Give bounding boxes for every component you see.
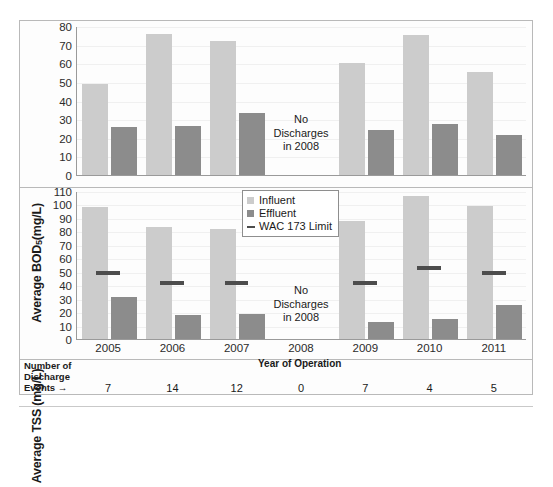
discharge-event-count: 7 <box>333 382 397 394</box>
influent-swatch-icon <box>247 197 254 204</box>
wac-limit-marker <box>417 266 441 270</box>
bar-effluent <box>368 322 394 339</box>
gridline <box>77 83 526 84</box>
x-axis-year-label: 2009 <box>333 342 397 354</box>
bar-effluent <box>175 126 201 175</box>
legend-entry-influent: Influent <box>247 194 332 207</box>
chart-legend: Influent Effluent WAC 173 Limit <box>242 190 339 237</box>
bar-influent <box>210 41 236 175</box>
bar-effluent <box>496 305 522 339</box>
x-axis-year-label: 2011 <box>462 342 526 354</box>
discharge-events-label: Number of Discharge Events → <box>24 360 72 393</box>
wac-limit-marker <box>353 281 377 285</box>
y-tick-label: 30 <box>59 115 72 125</box>
bod-chart-panel: Average BOD5 (mg/L) 80706050403020100 No… <box>20 21 532 188</box>
y-tick-label: 20 <box>59 134 72 144</box>
bar-influent <box>467 72 493 175</box>
y-tick-label: 90 <box>59 214 72 224</box>
bar-influent <box>146 34 172 175</box>
y-tick-label: 60 <box>59 59 72 69</box>
y-tick-label: 10 <box>59 322 72 332</box>
events-label-line-1: Number of <box>24 360 72 371</box>
wac-limit-marker <box>160 281 184 285</box>
tss-y-axis-ticks: 1101009080706050403020100 <box>46 188 72 340</box>
y-tick-label: 50 <box>59 78 72 88</box>
bod-note-line-1: No <box>256 113 346 127</box>
limit-line-icon <box>247 226 255 228</box>
y-tick-label: 40 <box>59 97 72 107</box>
bod-y-axis-ticks: 80706050403020100 <box>46 21 72 176</box>
y-tick-label: 110 <box>54 187 72 197</box>
bar-effluent <box>111 127 137 175</box>
gridline <box>77 27 526 28</box>
y-tick-label: 70 <box>59 241 72 251</box>
gridline <box>77 259 526 260</box>
bar-effluent <box>368 130 394 175</box>
bod-plot-area <box>76 27 526 176</box>
bar-effluent <box>432 124 458 175</box>
y-tick-label: 40 <box>59 281 72 291</box>
x-axis-year-label: 2010 <box>397 342 461 354</box>
gridline <box>77 64 526 65</box>
y-tick-label: 10 <box>59 152 72 162</box>
bod-note-line-2: Discharges <box>256 127 346 141</box>
gridline <box>77 157 526 158</box>
x-axis-year-label: 2006 <box>140 342 204 354</box>
discharge-event-count: 4 <box>397 382 461 394</box>
events-label-line-3: Events → <box>24 382 72 393</box>
bar-effluent <box>111 297 137 339</box>
gridline <box>77 246 526 247</box>
bar-influent <box>82 84 108 175</box>
x-axis-year-label: 2005 <box>76 342 140 354</box>
y-tick-label: 50 <box>59 268 72 278</box>
legend-label-limit: WAC 173 Limit <box>259 220 332 233</box>
legend-entry-effluent: Effluent <box>247 207 332 220</box>
tss-no-discharge-note: No Discharges in 2008 <box>256 284 346 325</box>
tss-note-line-2: Discharges <box>256 298 346 312</box>
bar-effluent <box>432 319 458 339</box>
bar-influent <box>403 35 429 175</box>
events-label-line-2: Discharge <box>24 371 72 382</box>
figure-frame: Average BOD5 (mg/L) 80706050403020100 No… <box>19 20 533 395</box>
bar-effluent <box>496 135 522 175</box>
discharge-event-count: 12 <box>205 382 269 394</box>
legend-label-influent: Influent <box>259 194 295 207</box>
discharge-events-row: Number of Discharge Events → 714120745 <box>20 360 532 394</box>
gridline <box>77 102 526 103</box>
y-tick-label: 0 <box>66 171 72 181</box>
gridline <box>77 273 526 274</box>
y-tick-label: 80 <box>59 22 72 32</box>
gridline <box>77 46 526 47</box>
bod-no-discharge-note: No Discharges in 2008 <box>256 113 346 154</box>
y-tick-label: 0 <box>66 335 72 345</box>
bar-effluent <box>175 315 201 339</box>
y-tick-label: 70 <box>59 41 72 51</box>
tss-note-line-1: No <box>256 284 346 298</box>
wac-limit-marker <box>225 281 249 285</box>
y-tick-label: 30 <box>59 295 72 305</box>
wac-limit-marker <box>96 271 120 275</box>
y-tick-label: 100 <box>53 200 72 210</box>
page-divider-rule <box>19 406 533 407</box>
discharge-event-count: 5 <box>462 382 526 394</box>
y-tick-label: 80 <box>59 227 72 237</box>
bod-note-line-3: in 2008 <box>256 140 346 154</box>
gridline <box>77 327 526 328</box>
y-tick-label: 60 <box>59 254 72 264</box>
effluent-swatch-icon <box>247 210 254 217</box>
legend-label-effluent: Effluent <box>259 207 296 220</box>
discharge-event-count: 14 <box>140 382 204 394</box>
x-axis-year-label: 2008 <box>269 342 333 354</box>
discharge-event-count: 0 <box>269 382 333 394</box>
x-axis-year-label: 2007 <box>205 342 269 354</box>
wac-limit-marker <box>482 271 506 275</box>
y-tick-label: 20 <box>59 308 72 318</box>
legend-entry-limit: WAC 173 Limit <box>247 220 332 233</box>
tss-chart-panel: Average TSS (mg/L) 110100908070605040302… <box>20 188 532 360</box>
tss-note-line-3: in 2008 <box>256 311 346 325</box>
discharge-event-count: 7 <box>76 382 140 394</box>
